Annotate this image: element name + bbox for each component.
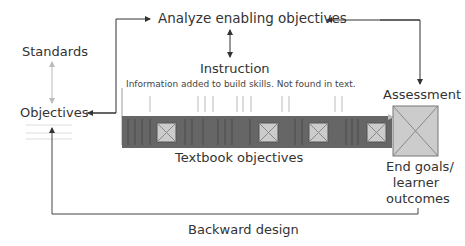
textbook-box-1	[157, 123, 176, 142]
end-goals-line-3: outcomes	[386, 191, 446, 206]
end-goals-line-2: learner	[386, 175, 446, 190]
assessment-box	[393, 106, 438, 156]
assessment-label: Assessment	[383, 87, 461, 102]
instruction-label: Instruction	[200, 61, 270, 76]
textbook-bar	[122, 116, 393, 148]
analyze-assessment-connector	[327, 20, 420, 84]
objectives-analyze-connector	[86, 19, 150, 113]
instruction-note: Information added to build skills. Not f…	[126, 79, 356, 89]
textbook-box-2	[259, 123, 278, 142]
textbook-objectives-label: Textbook objectives	[175, 150, 303, 165]
diagram-canvas	[0, 0, 465, 246]
backward-design-label: Backward design	[188, 222, 299, 237]
standards-label: Standards	[22, 44, 88, 59]
analyze-label: Analyze enabling objectives	[158, 10, 347, 26]
textbook-box-3	[309, 123, 328, 142]
textbook-box-4	[367, 123, 386, 142]
objectives-label: Objectives	[20, 105, 88, 120]
objectives-underlines	[26, 125, 72, 139]
end-goals-line-1: End goals/	[386, 159, 446, 174]
